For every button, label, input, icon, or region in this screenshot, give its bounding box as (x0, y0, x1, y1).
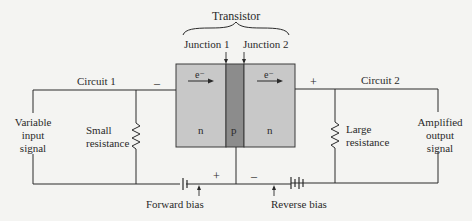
reverse-bias-arrow (272, 185, 276, 196)
junction2-label: Junction 2 (243, 38, 289, 51)
polarity-bottom-left: + (213, 170, 220, 182)
reverse-bias-label: Reverse bias (271, 198, 327, 211)
circuit2-label: Circuit 2 (361, 74, 400, 87)
circuit-diagram (0, 0, 472, 221)
junction1-arrow (224, 52, 228, 64)
large-resistance-label: Large resistance (346, 123, 389, 149)
forward-bias-arrow (197, 185, 201, 196)
amplified-output-signal-label: Amplified output signal (414, 116, 466, 155)
junction1-label: Junction 1 (184, 38, 230, 51)
transistor-title: Transistor (212, 10, 260, 23)
p-region-label: p (231, 124, 237, 137)
polarity-top-left: – (154, 77, 160, 89)
forward-bias-battery-icon (183, 178, 187, 190)
transistor-brace (183, 22, 289, 35)
polarity-bottom-right: – (251, 170, 257, 182)
small-resistance-label: Small resistance (86, 124, 129, 150)
variable-input-signal-label: Variable input signal (10, 116, 56, 155)
electron-label-left: e⁻ (195, 68, 205, 81)
electron-label-right: e⁻ (264, 68, 274, 81)
circuit1-label: Circuit 1 (77, 75, 116, 88)
base-wire (186, 147, 291, 184)
polarity-top-right: + (310, 76, 317, 88)
forward-bias-label: Forward bias (146, 198, 204, 211)
n-region-right-label: n (267, 124, 273, 137)
n-region-left-label: n (198, 124, 204, 137)
junction2-arrow (242, 52, 246, 64)
